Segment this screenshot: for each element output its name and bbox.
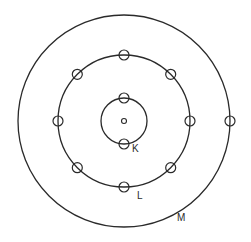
shell-l <box>58 55 190 187</box>
shells <box>18 15 230 227</box>
shell-label-m: M <box>177 212 185 223</box>
shell-m <box>18 15 230 227</box>
shell-label-l: L <box>137 190 143 201</box>
atom-diagram: K L M <box>0 0 251 242</box>
shell-label-k: K <box>132 143 139 154</box>
nucleus <box>122 119 127 124</box>
shell-k <box>101 98 147 144</box>
shell-labels: K L M <box>132 143 185 223</box>
